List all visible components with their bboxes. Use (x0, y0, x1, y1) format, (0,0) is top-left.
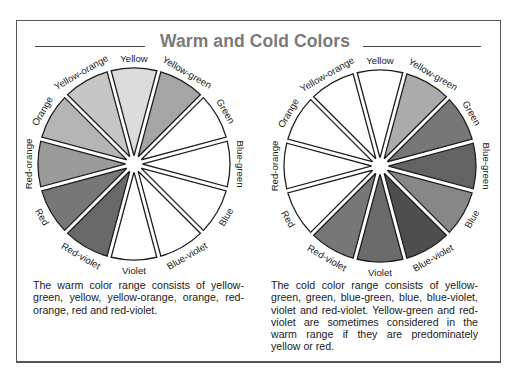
segment-label: Yellow (120, 53, 147, 64)
cold-color-wheel: YellowYellow-greenGreenBlue-greenBlueBlu… (269, 54, 492, 277)
segment-label: Yellow (366, 55, 393, 66)
cold-caption: The cold color range consists of yellow-… (271, 279, 478, 353)
segment-label: Red (33, 207, 51, 228)
segment-label: Blue-green (481, 143, 492, 190)
segment-label: Violet (368, 267, 392, 278)
segment-label: Violet (122, 265, 146, 276)
wheel-hub (372, 158, 388, 174)
segment-label: Blue-green (235, 141, 246, 188)
segment-label: Red-orange (23, 139, 34, 190)
segment-label: Red-orange (269, 141, 280, 192)
segment-label: Red (279, 209, 297, 230)
warm-caption: The warm color range consists of yellow-… (33, 279, 244, 316)
wheel-hub (126, 156, 142, 172)
warm-color-wheel: YellowYellow-greenGreenBlue-greenBlueBlu… (23, 52, 246, 275)
